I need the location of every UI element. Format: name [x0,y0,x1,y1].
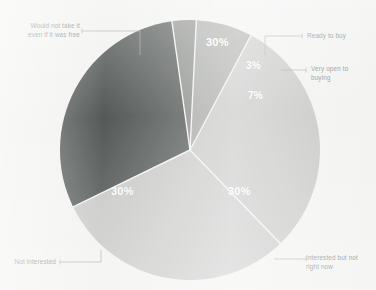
slice-value-interested-but-not-right-now: 30% [228,185,251,197]
pie-chart-canvas [0,0,376,290]
callout-label-ready-to-buy: Ready to buy [307,32,375,41]
slice-value-very-open-to-buying: 7% [248,90,263,101]
callout-label-very-open-to-buying: Very open to buying [311,65,373,82]
callout-label-interested-but-not-right-now: Interested but not right now [306,254,374,271]
callout-label-would-not-take-it: Would not take it even if it was free [8,22,80,39]
leader-line-not-interested [60,250,101,262]
pie-chart-figure: 30% 3% 7% 30% 30% Would not take it even… [0,0,376,290]
slice-value-ready-to-buy: 3% [246,60,261,71]
slice-value-not-interested: 30% [111,185,134,197]
callout-label-not-interested: Not interested [4,258,56,267]
slice-value-would-not-take-it: 30% [206,36,229,48]
